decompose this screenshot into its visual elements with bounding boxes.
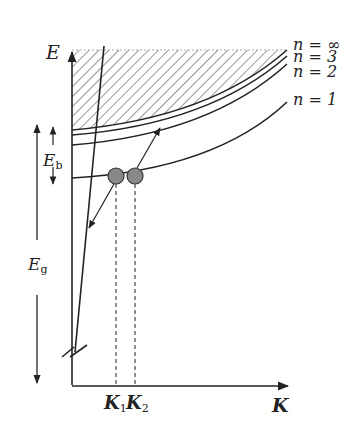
continuum-region — [72, 50, 287, 130]
transition-arrow-down — [89, 184, 114, 228]
exciton-dot-k2 — [127, 168, 143, 184]
label-n-1: n = 1 — [293, 90, 337, 109]
k1-label: K1 — [103, 392, 127, 415]
exciton-dot-k1 — [108, 168, 124, 184]
e-axis-label: E — [45, 41, 60, 63]
eg-label: Eg — [27, 254, 47, 276]
k2-label: K2 — [125, 392, 149, 415]
k-axis-label: K — [271, 394, 290, 416]
label-n-2: n = 2 — [293, 62, 337, 81]
eb-label: Eb — [42, 150, 62, 172]
exciton-diagram: E K Eb Eg K1 K2 n = ∞ n = 3 n = 2 n = 1 — [0, 0, 354, 437]
